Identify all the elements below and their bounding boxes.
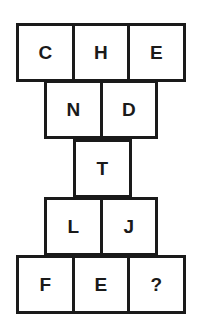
puzzle-cell: F bbox=[16, 255, 75, 314]
puzzle-row-2: N D bbox=[44, 80, 158, 139]
puzzle-cell: H bbox=[72, 23, 131, 82]
puzzle-cell: T bbox=[73, 139, 132, 198]
missing-answer-cell: ? bbox=[127, 255, 186, 314]
puzzle-cell: C bbox=[16, 23, 75, 82]
puzzle-row-4: L J bbox=[44, 197, 158, 256]
puzzle-cell: N bbox=[44, 80, 103, 139]
puzzle-cell: E bbox=[127, 23, 186, 82]
puzzle-row-5: F E ? bbox=[16, 255, 186, 314]
puzzle-row-3: T bbox=[73, 139, 132, 198]
puzzle-row-1: C H E bbox=[16, 23, 186, 82]
puzzle-cell: D bbox=[100, 80, 159, 139]
letter-pyramid-puzzle: C H E N D T L J F E ? bbox=[0, 0, 202, 331]
puzzle-cell: E bbox=[72, 255, 131, 314]
puzzle-cell: J bbox=[100, 197, 159, 256]
puzzle-cell: L bbox=[44, 197, 103, 256]
